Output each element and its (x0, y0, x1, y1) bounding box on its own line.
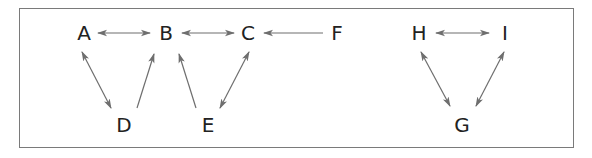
node-d: D (116, 115, 131, 135)
edge-c-e (220, 52, 249, 108)
node-h: H (411, 23, 426, 43)
edge-e-b (179, 54, 196, 108)
node-e: E (202, 115, 215, 135)
node-g: G (454, 115, 470, 135)
node-b: B (159, 23, 173, 43)
node-i: I (502, 23, 508, 43)
edge-i-g (476, 52, 504, 106)
edge-h-g (421, 52, 450, 106)
edge-d-b (137, 54, 154, 108)
node-c: C (241, 23, 255, 43)
node-a: A (77, 23, 91, 43)
node-f: F (331, 23, 343, 43)
edge-a-d (82, 52, 111, 108)
